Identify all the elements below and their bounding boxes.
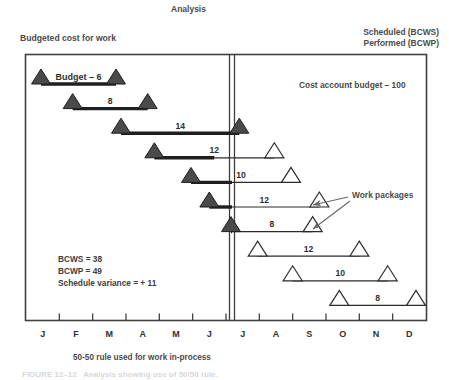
work-package-budget-label: 8: [269, 219, 274, 229]
milestone-triangle-filled: [230, 118, 249, 133]
milestone-triangle-open: [265, 143, 284, 158]
milestone-triangle-filled: [32, 69, 51, 84]
work-package-budget-label: 8: [108, 96, 113, 106]
milestone-triangle-filled: [222, 217, 241, 232]
milestone-triangle-filled: [138, 94, 157, 109]
milestone-triangle-open: [282, 167, 301, 182]
work-package-budget-label: 12: [260, 195, 270, 205]
milestone-triangle-filled: [107, 69, 126, 84]
milestone-triangle-open: [407, 290, 426, 305]
work-package-budget-label: 14: [175, 121, 185, 131]
work-package-budget-label: 10: [236, 170, 246, 180]
work-package-budget-label: 10: [335, 268, 345, 278]
month-label: A: [273, 329, 280, 339]
milestone-triangle-filled: [182, 167, 201, 182]
month-label: F: [73, 329, 79, 339]
month-label: O: [339, 329, 346, 339]
month-label: J: [240, 329, 245, 339]
month-label: S: [306, 329, 312, 339]
month-label: N: [373, 329, 380, 339]
work-package-budget-label: Budget – 6: [55, 72, 101, 82]
axis-ticks: [59, 314, 392, 321]
work-package-bars: [32, 69, 426, 305]
month-label: M: [106, 329, 114, 339]
month-label: J: [207, 329, 212, 339]
month-label: J: [40, 329, 45, 339]
work-package-budget-label: 8: [375, 293, 380, 303]
milestone-triangle-open: [330, 290, 349, 305]
work-package-values: Budget – 6814121012812108: [55, 72, 380, 303]
month-labels: JFMAMJJASOND: [40, 329, 413, 339]
milestone-triangle-filled: [112, 118, 131, 133]
milestone-triangle-filled: [145, 143, 164, 158]
work-package-budget-label: 12: [210, 145, 220, 155]
milestone-triangle-open: [350, 241, 369, 256]
month-label: D: [406, 329, 413, 339]
work-package-budget-label: 12: [304, 244, 314, 254]
status-date-divider: [230, 55, 235, 321]
month-label: A: [139, 329, 146, 339]
milestone-triangle-open: [378, 266, 397, 281]
milestone-triangle-filled: [63, 94, 82, 109]
milestone-triangle-open: [310, 192, 329, 207]
month-label: M: [172, 329, 180, 339]
milestone-triangle-filled: [200, 192, 219, 207]
milestone-triangle-open: [283, 266, 302, 281]
milestone-triangle-open: [248, 241, 267, 256]
